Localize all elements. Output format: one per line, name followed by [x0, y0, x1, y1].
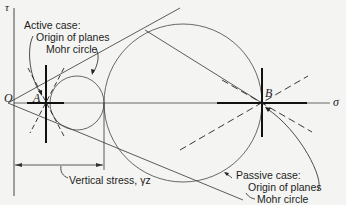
- vertical-stress-label: Vertical stress, γz: [69, 174, 151, 186]
- passive-case-label: Passive case:: [236, 169, 301, 181]
- point-b-label: B: [265, 87, 272, 99]
- passive-plane-line: [145, 30, 262, 103]
- leader-vertical-stress: [61, 166, 68, 178]
- active-mohr-label: Mohr circle: [46, 43, 97, 55]
- passive-origin-label: Origin of planes: [248, 181, 322, 193]
- point-a-label: A: [33, 92, 40, 104]
- leader-active-origin: [30, 36, 42, 95]
- sigma-axis-label: σ: [333, 96, 339, 108]
- tau-axis-label: τ: [5, 1, 9, 13]
- active-case-label: Active case:: [24, 19, 81, 31]
- passive-plane-dashed-1: [180, 76, 308, 150]
- dimension-arrow-left: [15, 163, 22, 167]
- leader-active-mohr-arrow: [91, 69, 95, 75]
- origin-label: O: [4, 92, 13, 104]
- leader-passive-mohr: [246, 193, 255, 199]
- dimension-arrow-right: [96, 163, 103, 167]
- active-origin-label: Origin of planes: [36, 31, 110, 43]
- passive-mohr-label: Mohr circle: [257, 193, 308, 205]
